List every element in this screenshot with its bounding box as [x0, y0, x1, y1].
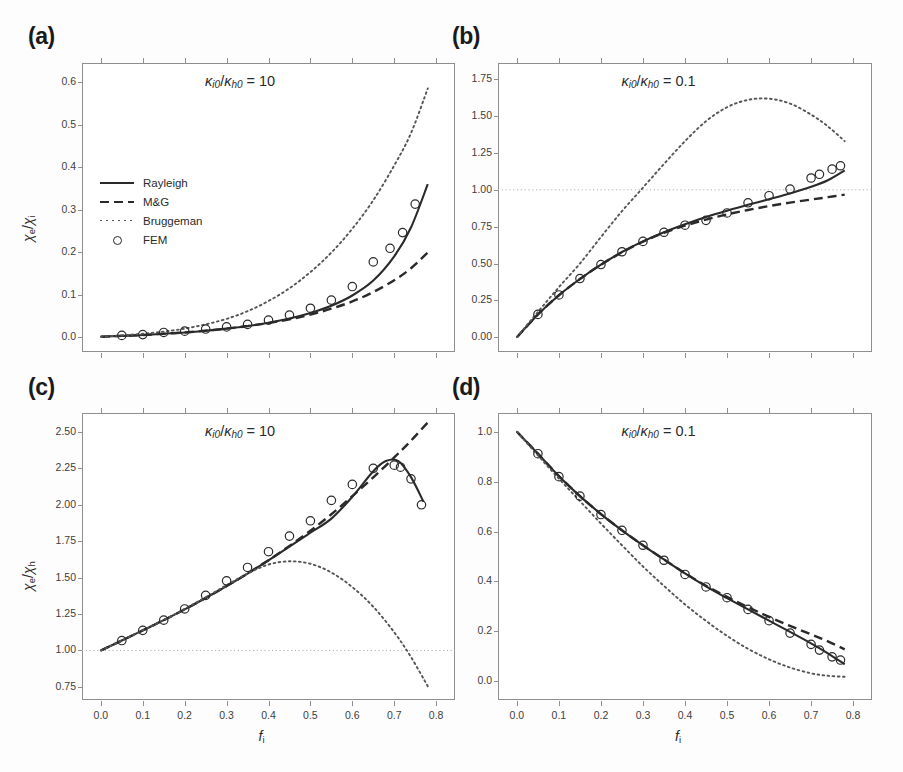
annotation-b: κi0/κh0 = 0.1 — [621, 73, 695, 90]
legend-key-dotted — [100, 215, 134, 227]
xtick-label-d-0: 0.0 — [497, 709, 537, 721]
ylabel-a: χe/χi — [20, 216, 37, 243]
legend-key-dashed — [100, 196, 134, 208]
ytick-label-a-3: 0.3 — [36, 203, 76, 215]
xtick-mark-top-b-0 — [517, 58, 518, 63]
legend-swatch-solid-icon — [100, 182, 134, 184]
ytick-label-a-2: 0.2 — [36, 245, 76, 257]
ytick-label-d-5: 1.0 — [452, 425, 492, 437]
xtick-mark-c-2 — [185, 701, 186, 706]
xtick-label-c-7: 0.7 — [374, 709, 414, 721]
annotation-d: κi0/κh0 = 0.1 — [621, 423, 695, 440]
xtick-mark-top-a-5 — [310, 58, 311, 63]
ytick-mark-a-2 — [78, 252, 83, 253]
legend-label: Bruggeman — [143, 215, 202, 227]
ytick-label-b-5: 1.25 — [452, 146, 492, 158]
legend-key-solid — [100, 177, 134, 189]
annotation-c: κi0/κh0 = 10 — [205, 423, 275, 440]
xtick-mark-top-a-3 — [227, 58, 228, 63]
xtick-mark-top-b-7 — [811, 58, 812, 63]
xlabel-c: fi — [259, 728, 265, 745]
xtick-mark-d-5 — [727, 701, 728, 706]
ytick-mark-a-6 — [78, 82, 83, 83]
ytick-mark-a-1 — [78, 295, 83, 296]
xtick-mark-d-2 — [601, 701, 602, 706]
ytick-mark-b-5 — [494, 153, 499, 154]
xtick-label-c-0: 0.0 — [81, 709, 121, 721]
xtick-mark-top-c-2 — [185, 408, 186, 413]
ytick-label-c-3: 1.50 — [36, 571, 76, 583]
ytick-mark-d-2 — [494, 581, 499, 582]
xtick-mark-c-0 — [101, 701, 102, 706]
legend-swatch-circle-icon — [113, 236, 122, 245]
xtick-label-c-2: 0.2 — [165, 709, 205, 721]
xtick-mark-b-4 — [685, 353, 686, 358]
ytick-mark-c-4 — [78, 541, 83, 542]
xtick-mark-a-5 — [310, 353, 311, 358]
legend-label: Rayleigh — [143, 177, 188, 189]
ytick-label-d-3: 0.6 — [452, 525, 492, 537]
xtick-mark-a-6 — [352, 353, 353, 358]
ytick-label-b-2: 0.50 — [452, 257, 492, 269]
xtick-label-c-6: 0.6 — [332, 709, 372, 721]
ytick-label-c-5: 2.00 — [36, 498, 76, 510]
panel-label-b: (b) — [452, 23, 480, 50]
xtick-mark-top-c-4 — [269, 408, 270, 413]
xtick-mark-a-8 — [436, 353, 437, 358]
ytick-label-d-1: 0.2 — [452, 624, 492, 636]
ytick-label-c-2: 1.25 — [36, 607, 76, 619]
xtick-mark-top-c-3 — [227, 408, 228, 413]
ytick-mark-b-3 — [494, 227, 499, 228]
ylabel-c: χe/χh — [20, 561, 37, 591]
xtick-mark-a-2 — [185, 353, 186, 358]
ytick-label-a-0: 0.0 — [36, 330, 76, 342]
ytick-label-c-1: 1.00 — [36, 643, 76, 655]
xtick-label-c-4: 0.4 — [249, 709, 289, 721]
xtick-mark-top-a-4 — [269, 58, 270, 63]
ytick-mark-c-2 — [78, 614, 83, 615]
xtick-mark-top-b-5 — [727, 58, 728, 63]
xtick-mark-top-a-7 — [394, 58, 395, 63]
legend-item-fem: FEM — [100, 230, 202, 249]
ytick-label-b-6: 1.50 — [452, 109, 492, 121]
xtick-mark-c-8 — [436, 701, 437, 706]
xlabel-d: fi — [675, 728, 681, 745]
ytick-mark-c-1 — [78, 650, 83, 651]
xtick-mark-d-3 — [643, 701, 644, 706]
panel-label-a: (a) — [28, 23, 55, 50]
ytick-label-c-0: 0.75 — [36, 680, 76, 692]
xtick-mark-d-8 — [853, 701, 854, 706]
ytick-label-c-4: 1.75 — [36, 534, 76, 546]
xtick-mark-c-7 — [394, 701, 395, 706]
xtick-mark-c-6 — [352, 701, 353, 706]
figure-root: (a)κi0/κh0 = 100.00.10.20.30.40.50.6χe/χ… — [0, 0, 903, 772]
xtick-mark-b-0 — [517, 353, 518, 358]
xtick-label-d-1: 0.1 — [539, 709, 579, 721]
xtick-mark-top-d-1 — [559, 408, 560, 413]
xtick-mark-top-a-2 — [185, 58, 186, 63]
plot-area-d — [498, 413, 872, 700]
xtick-label-c-8: 0.8 — [416, 709, 456, 721]
xtick-mark-top-b-3 — [643, 58, 644, 63]
ytick-mark-d-5 — [494, 432, 499, 433]
ytick-label-a-4: 0.4 — [36, 160, 76, 172]
xtick-label-d-2: 0.2 — [581, 709, 621, 721]
xtick-mark-top-b-6 — [769, 58, 770, 63]
ytick-mark-b-7 — [494, 79, 499, 80]
xtick-label-d-5: 0.5 — [707, 709, 747, 721]
ytick-mark-a-5 — [78, 125, 83, 126]
panel-label-c: (c) — [28, 374, 55, 401]
xtick-mark-top-d-8 — [853, 408, 854, 413]
ytick-mark-b-1 — [494, 300, 499, 301]
ytick-mark-b-6 — [494, 116, 499, 117]
ytick-mark-b-4 — [494, 190, 499, 191]
ytick-mark-d-4 — [494, 482, 499, 483]
xtick-mark-b-5 — [727, 353, 728, 358]
plot-area-b — [498, 63, 872, 352]
xtick-mark-b-2 — [601, 353, 602, 358]
legend-swatch-dashed-icon — [100, 201, 134, 204]
xtick-mark-d-0 — [517, 701, 518, 706]
ytick-mark-d-0 — [494, 681, 499, 682]
xtick-mark-top-a-6 — [352, 58, 353, 63]
xtick-mark-c-3 — [227, 701, 228, 706]
